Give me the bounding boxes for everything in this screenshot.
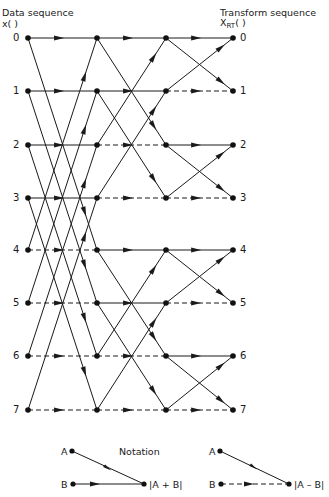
arrow-icon xyxy=(54,36,64,41)
intermediate-node xyxy=(163,142,169,148)
intermediate-node xyxy=(94,195,100,201)
output-node xyxy=(230,195,236,201)
arrow-icon xyxy=(81,312,89,323)
arrow-icon xyxy=(191,89,201,94)
arrow-icon xyxy=(81,259,89,270)
intermediate-node xyxy=(94,407,100,413)
input-node xyxy=(25,142,31,148)
arrow-icon xyxy=(191,408,201,413)
sum-result-node xyxy=(141,481,146,486)
arrow-icon xyxy=(123,248,133,253)
arrow-icon xyxy=(123,36,133,41)
arrow-icon xyxy=(123,196,133,201)
input-node xyxy=(25,300,31,306)
sum-b-node xyxy=(70,481,75,486)
diff-result-node xyxy=(286,481,291,486)
input-node xyxy=(25,35,31,41)
intermediate-node xyxy=(163,300,169,306)
arrow-icon xyxy=(149,52,159,63)
arrow-icon xyxy=(191,354,201,359)
output-node xyxy=(230,142,236,148)
diff-a-label: A xyxy=(209,446,216,457)
output-node xyxy=(230,300,236,306)
sum-result-label: |A + B| xyxy=(149,479,182,490)
arrow-icon xyxy=(81,366,89,377)
input-node xyxy=(25,88,31,94)
arrow-icon xyxy=(191,196,201,201)
output-node xyxy=(230,353,236,359)
output-node xyxy=(230,247,236,253)
arrow-icon xyxy=(54,408,64,413)
input-node xyxy=(25,407,31,413)
diff-result-label: |A – B| xyxy=(294,479,324,490)
intermediate-node xyxy=(94,353,100,359)
intermediate-node xyxy=(94,35,100,41)
arrow-icon xyxy=(54,89,64,94)
arrow-icon xyxy=(149,264,159,275)
arrow-icon xyxy=(81,124,89,135)
intermediate-node xyxy=(163,35,169,41)
arrow-icon xyxy=(191,143,201,148)
arrow-icon xyxy=(149,120,159,131)
diff-a-node xyxy=(217,448,222,453)
input-node xyxy=(25,247,31,253)
arrow-icon xyxy=(81,177,89,188)
arrow-icon xyxy=(191,301,201,306)
arrow-icon xyxy=(149,317,159,328)
sum-b-label: B xyxy=(61,479,68,490)
intermediate-node xyxy=(94,142,100,148)
arrow-icon xyxy=(81,206,89,217)
output-node xyxy=(230,35,236,41)
intermediate-node xyxy=(94,300,100,306)
arrow-icon xyxy=(123,408,133,413)
flow-graph xyxy=(0,0,329,497)
arrow-icon xyxy=(149,331,159,342)
output-node xyxy=(230,407,236,413)
notation-title: Notation xyxy=(119,446,160,457)
arrow-icon xyxy=(54,354,64,359)
diff-b-label: B xyxy=(209,479,216,490)
output-node xyxy=(230,88,236,94)
arrow-icon xyxy=(81,71,89,82)
intermediate-node xyxy=(94,247,100,253)
intermediate-node xyxy=(94,88,100,94)
intermediate-node xyxy=(163,353,169,359)
arrow-icon xyxy=(191,248,201,253)
arrow-icon xyxy=(191,36,201,41)
arrow-icon xyxy=(81,231,89,242)
intermediate-node xyxy=(163,247,169,253)
diff-b-node xyxy=(218,481,223,486)
sum-a-node xyxy=(69,448,74,453)
input-node xyxy=(25,353,31,359)
intermediate-node xyxy=(163,88,169,94)
intermediate-node xyxy=(163,407,169,413)
sum-a-label: A xyxy=(61,446,68,457)
arrow-icon xyxy=(149,385,159,396)
input-node xyxy=(25,195,31,201)
intermediate-node xyxy=(163,195,169,201)
arrow-icon xyxy=(149,105,159,116)
arrow-icon xyxy=(149,173,159,184)
